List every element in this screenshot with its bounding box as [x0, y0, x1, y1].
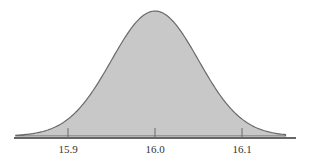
x-tick-label: 16.0 [135, 143, 175, 155]
x-tick-label: 15.9 [48, 143, 88, 155]
x-tick-label: 16.1 [222, 143, 262, 155]
curve-area [16, 11, 286, 136]
normal-curve-chart [0, 0, 310, 162]
